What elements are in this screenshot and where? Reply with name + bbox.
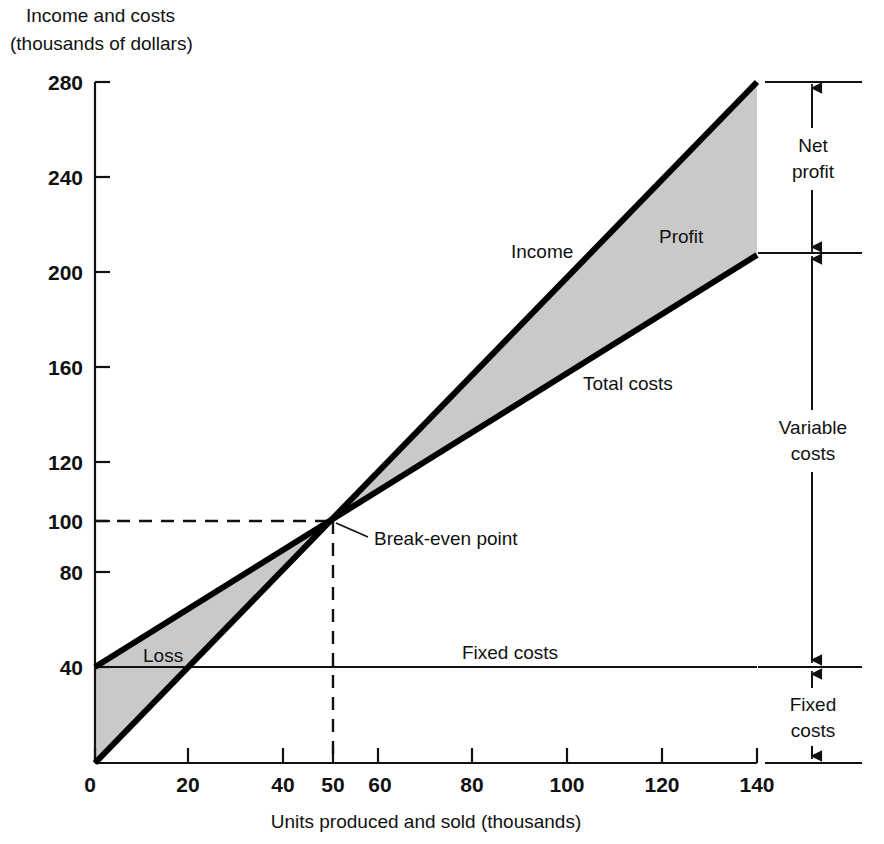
x-tick-label-100: 100 xyxy=(549,773,584,796)
fixed-costs-bracket: Fixed costs xyxy=(779,671,849,759)
x-tick-label-40: 40 xyxy=(271,773,294,796)
fixed-costs-bracket-label-line1: Fixed xyxy=(790,694,836,715)
variable-costs-bracket: Variable costs xyxy=(765,256,863,663)
x-tick-label-120: 120 xyxy=(644,773,679,796)
y-tick-label-280: 280 xyxy=(48,71,83,94)
break-even-leader-line xyxy=(336,523,368,537)
y-axis-ticks xyxy=(95,82,110,667)
total-costs-line xyxy=(95,255,757,667)
y-axis-title-line2: (thousands of dollars) xyxy=(10,33,193,54)
x-axis-title: Units produced and sold (thousands) xyxy=(271,811,582,832)
y-tick-label-200: 200 xyxy=(48,261,83,284)
fixed-costs-label: Fixed costs xyxy=(462,642,558,663)
y-tick-label-0: 0 xyxy=(84,773,96,796)
y-tick-label-100: 100 xyxy=(48,510,83,533)
x-tick-label-60: 60 xyxy=(368,773,391,796)
x-tick-label-80: 80 xyxy=(460,773,483,796)
break-even-annotation-label: Break-even point xyxy=(374,528,518,549)
x-tick-label-50: 50 xyxy=(321,773,344,796)
x-tick-label-20: 20 xyxy=(176,773,199,796)
variable-costs-bracket-label-line1: Variable xyxy=(779,417,847,438)
x-tick-label-140: 140 xyxy=(739,773,774,796)
loss-region-label: Loss xyxy=(143,645,183,666)
income-line xyxy=(95,82,757,763)
income-label: Income xyxy=(511,241,573,262)
variable-costs-bracket-label-line2: costs xyxy=(791,443,835,464)
chart-canvas: 280 240 200 160 120 100 80 40 0 20 40 50… xyxy=(0,0,884,844)
net-profit-bracket: Net profit xyxy=(779,84,849,252)
y-tick-label-160: 160 xyxy=(48,356,83,379)
fixed-costs-bracket-label-line2: costs xyxy=(791,720,835,741)
break-even-chart: 280 240 200 160 120 100 80 40 0 20 40 50… xyxy=(0,0,884,844)
y-tick-label-80: 80 xyxy=(60,561,83,584)
profit-region-label: Profit xyxy=(659,226,704,247)
y-tick-label-240: 240 xyxy=(48,166,83,189)
y-tick-label-120: 120 xyxy=(48,451,83,474)
x-axis-ticks xyxy=(95,748,757,763)
total-costs-label: Total costs xyxy=(583,373,673,394)
net-profit-bracket-label-line1: Net xyxy=(798,135,828,156)
y-axis-title-line1: Income and costs xyxy=(26,5,175,26)
net-profit-bracket-label-line2: profit xyxy=(792,161,835,182)
y-tick-label-40: 40 xyxy=(60,656,83,679)
